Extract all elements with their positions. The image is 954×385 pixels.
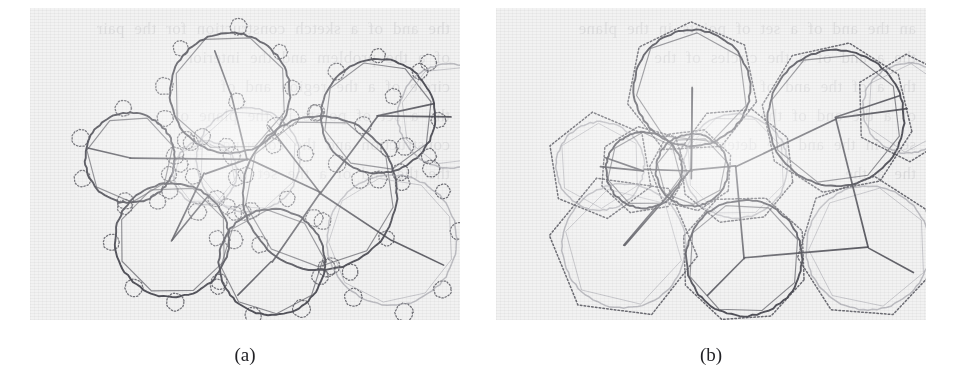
edge-group — [600, 88, 907, 259]
dotted-small-circle — [273, 44, 288, 59]
graph-spoke — [708, 257, 745, 295]
figure-root: the and of a sketch construction for the… — [0, 0, 954, 385]
packing-circle — [863, 63, 926, 153]
graph-edge — [320, 116, 378, 194]
graph-spoke — [691, 87, 692, 179]
figure-panel-a: the and of a sketch construction for the… — [30, 8, 460, 320]
dotted-small-circle — [219, 138, 236, 153]
dotted-small-circle — [423, 160, 440, 177]
dotted-small-circle — [385, 88, 401, 104]
panel-b-drawing — [496, 8, 926, 320]
dotted-small-circle — [433, 281, 451, 298]
graph-spoke — [88, 148, 131, 158]
graph-edge — [130, 158, 248, 159]
graph-spoke — [392, 241, 444, 266]
packing-circle — [806, 186, 926, 310]
dotted-circumscribing-polygon — [798, 176, 926, 314]
dotted-small-circle — [435, 184, 450, 199]
graph-edge — [249, 159, 320, 192]
dotted-small-circle — [371, 49, 386, 63]
circle-group — [556, 29, 926, 316]
graph-edge — [736, 119, 837, 167]
graph-spoke — [377, 104, 434, 116]
graph-spoke — [238, 261, 271, 295]
graph-spoke — [215, 51, 231, 94]
dotted-small-circle — [431, 112, 446, 128]
dotted-small-circle — [285, 80, 301, 95]
figure-panel-b: an the and of a set of points in the pla… — [496, 8, 926, 320]
dotted-small-circle — [103, 234, 119, 250]
panel-a-drawing — [30, 8, 460, 320]
graph-edge — [272, 192, 321, 262]
caption-b: (b) — [496, 340, 926, 370]
circle-group — [85, 32, 460, 315]
caption-a: (a) — [30, 340, 460, 370]
graph-edge — [377, 116, 451, 117]
graph-spoke — [869, 248, 914, 272]
dotted-small-circle — [173, 40, 189, 56]
